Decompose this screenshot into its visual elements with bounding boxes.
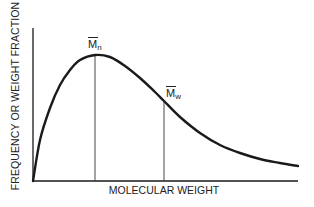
distribution-curve (33, 55, 298, 181)
mw-subscript: w (175, 92, 181, 101)
mn-symbol: M (88, 38, 97, 50)
mn-subscript: n (97, 43, 101, 52)
y-axis-label: FREQUENCY OR WEIGHT FRACTION (9, 2, 21, 191)
mn-annotation: Mn (88, 37, 102, 52)
mw-annotation: Mw (166, 86, 181, 101)
distribution-chart (0, 0, 314, 207)
x-axis-label: MOLECULAR WEIGHT (109, 184, 219, 196)
mw-symbol: M (166, 87, 175, 99)
